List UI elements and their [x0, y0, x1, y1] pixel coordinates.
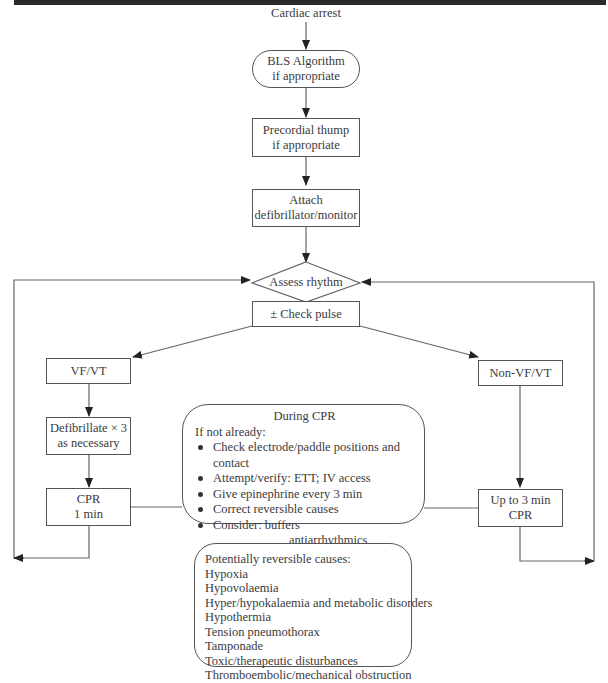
cause-item: Tamponade: [205, 639, 405, 654]
attach-line2: defibrillator/monitor: [255, 208, 358, 223]
defib-line1: Defibrillate × 3: [50, 421, 127, 436]
node-assess-rhythm: Assess rhythm: [262, 275, 350, 290]
during-cpr-title: During CPR: [195, 409, 414, 425]
node-bls-algorithm: BLS Algorithm if appropriate: [252, 50, 360, 88]
cause-item: Hypoxia: [205, 567, 405, 582]
node-non-vf-vt: Non-VF/VT: [478, 360, 563, 386]
cause-item: Hypothermia: [205, 610, 405, 625]
thump-line2: if appropriate: [272, 138, 340, 153]
node-attach-defibrillator: Attach defibrillator/monitor: [252, 189, 360, 227]
during-cpr-item: Correct reversible causes: [195, 502, 414, 518]
cause-item: Tension pneumothorax: [205, 625, 405, 640]
nonvfvt-label: Non-VF/VT: [490, 366, 552, 381]
node-cpr-1min: CPR 1 min: [46, 488, 131, 526]
thump-line1: Precordial thump: [263, 123, 349, 138]
defib-line2: as necessary: [57, 436, 119, 451]
cpr3-line2: CPR: [509, 508, 533, 523]
during-cpr-item: Give epinephrine every 3 min: [195, 487, 414, 503]
attach-line1: Attach: [289, 193, 322, 208]
cpr1-line1: CPR: [77, 492, 101, 507]
cause-item: Hyper/hypokalaemia and metabolic disorde…: [205, 596, 405, 611]
during-cpr-intro: If not already:: [195, 425, 414, 441]
bullet-icon: [198, 476, 203, 481]
node-defibrillate: Defibrillate × 3 as necessary: [46, 417, 131, 455]
causes-title: Potentially reversible causes:: [205, 552, 405, 567]
bullet-icon: [198, 445, 203, 450]
during-cpr-item: Check electrode/paddle positions and con…: [195, 440, 414, 471]
node-vf-vt: VF/VT: [46, 358, 131, 384]
cpr1-line2: 1 min: [74, 507, 103, 522]
bls-line2: if appropriate: [272, 69, 340, 84]
during-cpr-item: Attempt/verify: ETT; IV access: [195, 471, 414, 487]
during-cpr-box: During CPR If not already: Check electro…: [182, 404, 425, 524]
cause-item: Toxic/therapeutic disturbances: [205, 654, 405, 669]
node-check-pulse: ± Check pulse: [252, 301, 360, 327]
cpr3-line1: Up to 3 min: [490, 493, 550, 508]
cause-item: Thromboembolic/mechanical obstruction: [205, 668, 405, 683]
bullet-icon: [198, 492, 203, 497]
reversible-causes-box: Potentially reversible causes: Hypoxia H…: [194, 543, 412, 667]
during-cpr-list: Check electrode/paddle positions and con…: [195, 440, 414, 533]
node-cpr-3min: Up to 3 min CPR: [478, 489, 563, 527]
during-cpr-item: Consider: buffers: [195, 518, 414, 534]
node-precordial-thump: Precordial thump if appropriate: [252, 118, 360, 157]
vfvt-label: VF/VT: [70, 364, 106, 379]
bullet-icon: [198, 507, 203, 512]
bls-line1: BLS Algorithm: [267, 54, 344, 69]
start-cardiac-arrest: Cardiac arrest: [256, 6, 356, 21]
cause-item: Hypovolaemia: [205, 581, 405, 596]
pulse-label: ± Check pulse: [270, 307, 341, 322]
bullet-icon: [198, 523, 203, 528]
